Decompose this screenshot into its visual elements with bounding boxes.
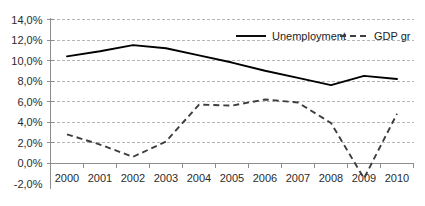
x-axis-tick-label: 2009 bbox=[352, 172, 376, 184]
x-axis-tick-label: 2007 bbox=[286, 172, 310, 184]
y-axis-tick-label: 4,0% bbox=[17, 116, 42, 128]
y-axis-tick-label: 0,0% bbox=[17, 157, 42, 169]
y-axis-tick-label: 2,0% bbox=[17, 137, 42, 149]
y-axis-tick-label: 10,0% bbox=[11, 55, 42, 67]
x-axis-tick-label: 2001 bbox=[88, 172, 112, 184]
x-axis-tick-label: 2010 bbox=[385, 172, 409, 184]
series-group bbox=[67, 45, 397, 178]
series-line-1 bbox=[67, 45, 397, 85]
y-axis-tick-label: 14,0% bbox=[11, 14, 42, 26]
chart-container: 14,0%12,0%10,0%8,0%6,0%4,0%2,0%0,0%-2,0%… bbox=[0, 0, 425, 206]
x-axis-tick-label: 2005 bbox=[220, 172, 244, 184]
x-axis-tick-label: 2003 bbox=[154, 172, 178, 184]
x-axis-tick-label: 2002 bbox=[121, 172, 145, 184]
gridlines-group bbox=[52, 20, 414, 164]
line-chart: 14,0%12,0%10,0%8,0%6,0%4,0%2,0%0,0%-2,0%… bbox=[0, 0, 425, 206]
y-axis-tick-label: 12,0% bbox=[11, 34, 42, 46]
x-axis-group bbox=[51, 18, 414, 189]
x-axis-tick-label: 2004 bbox=[187, 172, 211, 184]
y-axis-tick-label: 8,0% bbox=[17, 75, 42, 87]
x-axis-labels-group: 2000200120022003200420052006200720082009… bbox=[55, 172, 409, 184]
x-axis-tick-label: 2008 bbox=[319, 172, 343, 184]
x-axis-tick-label: 2000 bbox=[55, 172, 79, 184]
y-axis-tick-label: 6,0% bbox=[17, 96, 42, 108]
y-axis-tick-label: -2,0% bbox=[14, 178, 43, 190]
legend-label-1: Unemployment bbox=[272, 30, 346, 42]
x-axis-tick-label: 2006 bbox=[253, 172, 277, 184]
y-axis-labels-group: 14,0%12,0%10,0%8,0%6,0%4,0%2,0%0,0%-2,0% bbox=[11, 14, 42, 190]
legend-label-2: GDP gr bbox=[374, 30, 411, 42]
